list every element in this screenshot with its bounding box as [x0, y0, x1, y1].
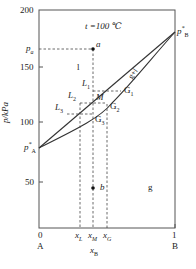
M-label: M	[96, 93, 104, 102]
xL-sub: L	[79, 236, 82, 242]
ytick-label-150: 150	[20, 63, 34, 72]
pa-label: pa	[26, 44, 34, 53]
x-axis-label: xB	[90, 246, 98, 255]
xL-label: xL	[75, 231, 82, 240]
G2-label: G2	[110, 102, 120, 111]
ytick-label-200: 200	[20, 6, 34, 15]
L1-label: L1	[82, 79, 90, 88]
G3-label: G3	[95, 115, 105, 124]
G2-sub: 2	[117, 107, 120, 113]
temperature-label: t =100 ℃	[85, 22, 122, 31]
pB-star-label: p*B	[177, 27, 189, 36]
xM-label: xM	[88, 231, 97, 240]
L1-sub: 1	[87, 84, 90, 90]
xtick-label-1: 1	[172, 231, 177, 240]
component-B-label: B	[172, 242, 178, 251]
y-axis-label: p/kPa	[1, 102, 10, 123]
xG-label: xG	[103, 231, 111, 240]
point-a-label: a	[96, 40, 101, 49]
G3-sub: 3	[102, 120, 105, 126]
G1-sub: 1	[131, 91, 134, 97]
G1-label: G1	[124, 86, 134, 95]
L2-sub: 2	[73, 96, 76, 102]
region-liquid-label: l	[77, 63, 80, 72]
component-A-label: A	[37, 242, 44, 251]
pA-sup: *	[29, 141, 32, 147]
point-b-marker	[91, 186, 95, 190]
L3-label: L3	[55, 103, 63, 112]
pA-sub: A	[32, 148, 36, 154]
xB-sub: B	[94, 251, 98, 257]
pa-sub: a	[31, 49, 34, 55]
ytick-label-50: 50	[25, 178, 34, 187]
region-gas-label: g	[148, 183, 153, 192]
pB-sup: *	[182, 25, 185, 31]
point-a-marker	[91, 47, 95, 51]
xG-sub: G	[107, 236, 111, 242]
L2-label: L2	[68, 91, 76, 100]
ytick-label-100: 100	[20, 118, 34, 127]
L3-sub: 3	[60, 108, 63, 114]
pA-star-label: p*A	[24, 143, 36, 152]
liquid-line	[39, 32, 175, 148]
pB-sub: B	[185, 32, 189, 38]
point-b-label: b	[100, 183, 105, 192]
xtick-label-0: 0	[38, 231, 43, 240]
xM-sub: M	[92, 236, 97, 242]
